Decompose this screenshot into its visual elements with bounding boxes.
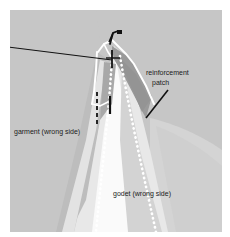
label-patch: patch	[152, 79, 169, 87]
diagram-canvas: reinforcement patch garment (wrong side)…	[0, 0, 230, 237]
label-godet-wrong-side: godet (wrong side)	[113, 190, 171, 198]
label-reinforcement: reinforcement	[146, 69, 189, 76]
godet-insertion-diagram: reinforcement patch garment (wrong side)…	[0, 0, 230, 237]
label-garment-wrong-side: garment (wrong side)	[14, 128, 80, 136]
